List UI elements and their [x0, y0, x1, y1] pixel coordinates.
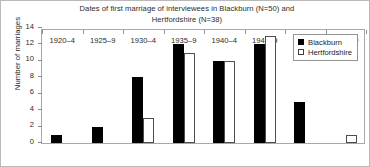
y-tick-label: 2	[4, 120, 34, 129]
legend-label-blackburn: Blackburn	[308, 38, 342, 47]
x-tick-label: 1920–4	[40, 36, 84, 161]
x-tick-mark	[366, 30, 367, 34]
y-tick-label: 10	[4, 54, 34, 63]
y-tick-label: 4	[4, 104, 34, 113]
y-tick-label: 12	[4, 38, 34, 47]
x-tick-mark	[123, 30, 124, 34]
y-tick: 0	[0, 142, 42, 143]
x-tick-label: 1925–9	[81, 36, 125, 161]
legend-item-hertfordshire: Hertfordshire	[298, 47, 352, 57]
y-tick: 2	[0, 126, 42, 127]
bar-hertfordshire-1955–9	[346, 135, 357, 143]
y-tick: 6	[0, 93, 42, 94]
bar-blackburn-1920–4	[51, 135, 62, 143]
y-tick: 10	[0, 60, 42, 61]
bar-hertfordshire-1945–9	[265, 36, 276, 143]
x-tick-mark	[285, 30, 286, 34]
bar-blackburn-1935–9	[173, 44, 184, 143]
x-tick-mark	[42, 30, 43, 34]
chart-title: Dates of first marriage of interviewees …	[27, 4, 347, 25]
y-tick-label: 6	[4, 87, 34, 96]
x-tick-mark	[245, 30, 246, 34]
y-tick-label: 8	[4, 71, 34, 80]
y-tick-label: 0	[4, 137, 34, 146]
x-tick-mark	[164, 30, 165, 34]
bar-blackburn-1945–9	[254, 44, 265, 143]
legend-swatch-hertfordshire-icon	[298, 49, 304, 55]
y-tick: 4	[0, 109, 42, 110]
bar-blackburn-1930–4	[132, 77, 143, 143]
y-tick: 12	[0, 43, 42, 44]
x-tick-mark	[204, 30, 205, 34]
y-tick-mark	[38, 27, 42, 28]
bar-blackburn-1940–4	[213, 61, 224, 143]
legend-swatch-blackburn-icon	[298, 39, 304, 45]
y-tick: 14	[0, 27, 42, 28]
bar-hertfordshire-1940–4	[224, 61, 235, 143]
plot-area: 02468101214 1920–41925–91930–41935–91940…	[41, 29, 365, 144]
y-tick-label: 14	[4, 22, 34, 31]
chart-figure: Dates of first marriage of interviewees …	[0, 0, 370, 167]
y-tick: 8	[0, 76, 42, 77]
chart-legend: Blackburn Hertfordshire	[293, 34, 358, 61]
bar-blackburn-1950–4	[294, 102, 305, 143]
bar-blackburn-1925–9	[92, 127, 103, 143]
legend-item-blackburn: Blackburn	[298, 37, 352, 47]
x-tick-mark	[83, 30, 84, 34]
legend-label-hertfordshire: Hertfordshire	[308, 48, 352, 57]
bar-hertfordshire-1930–4	[143, 118, 154, 143]
bar-hertfordshire-1935–9	[184, 53, 195, 143]
